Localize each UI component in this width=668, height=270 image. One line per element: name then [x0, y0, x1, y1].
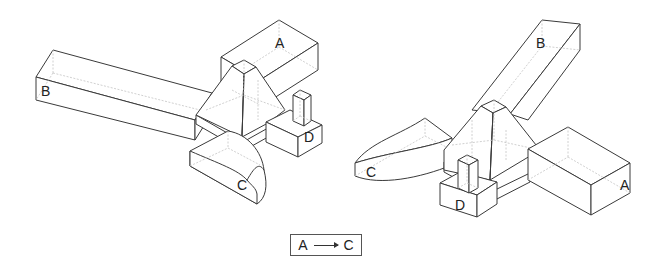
right-arrow-icon	[314, 245, 338, 246]
left-label-c: C	[237, 177, 247, 193]
diagram-canvas: B A D C	[0, 0, 668, 270]
left-block-b	[36, 50, 212, 140]
right-label-c: C	[366, 164, 376, 180]
right-block-a	[528, 127, 630, 215]
legend-to: C	[344, 237, 354, 253]
legend-box: A C	[290, 234, 362, 256]
left-label-b: B	[41, 83, 50, 99]
right-label-a: A	[620, 177, 630, 193]
right-label-d: D	[455, 197, 465, 213]
legend-from: A	[298, 237, 307, 253]
right-label-b: B	[536, 35, 545, 51]
right-figure: B C D A	[355, 20, 630, 217]
left-label-d: D	[304, 129, 314, 145]
left-figure: B A D C	[36, 20, 322, 204]
left-label-a: A	[275, 35, 285, 51]
